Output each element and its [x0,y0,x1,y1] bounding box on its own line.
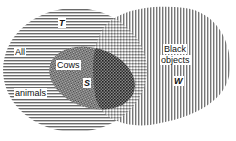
venn-shapes [0,0,236,141]
label-animals: animals [14,88,47,98]
set-symbol-w: W [173,76,184,86]
label-objects: objects [160,55,191,65]
set-symbol-s: S [83,78,91,88]
label-black: Black [163,44,187,54]
label-all: All [14,47,26,57]
label-cows: Cows [56,60,81,70]
set-symbol-t: T [58,18,66,28]
venn-diagram: T All animals Cows S Black objects W [0,0,236,141]
